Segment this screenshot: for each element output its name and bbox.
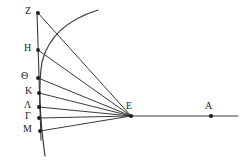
point-label-z: Z (25, 6, 31, 16)
point-label-a: A (205, 101, 212, 111)
point-marker-e (129, 114, 133, 118)
ray-h-to-e (38, 50, 131, 116)
point-label-mu: M (23, 124, 32, 134)
point-marker-z (36, 11, 40, 15)
point-marker-theta (36, 76, 40, 80)
geometry-canvas (0, 0, 244, 168)
point-label-lambda: Λ (24, 100, 31, 110)
point-label-e: E (126, 101, 132, 111)
point-marker-kappa (37, 91, 41, 95)
ray-lambda-to-e (39, 107, 131, 116)
ray-theta-to-e (38, 78, 131, 116)
point-marker-a (209, 114, 213, 118)
point-label-theta: Θ (21, 71, 28, 81)
point-label-gamma: Γ (25, 111, 31, 121)
ray-kappa-to-e (39, 93, 131, 116)
main-arc-curve (40, 10, 98, 156)
point-marker-gamma (37, 116, 41, 120)
point-marker-mu (38, 129, 42, 133)
point-marker-h (36, 48, 40, 52)
ray-mu-to-e (40, 116, 131, 131)
point-label-h: H (24, 43, 31, 53)
point-label-kappa: K (25, 86, 32, 96)
ray-gamma-to-e (39, 116, 131, 118)
ray-z-to-e (38, 13, 131, 116)
point-marker-lambda (37, 105, 41, 109)
geometry-figure: Z H Θ K Λ Γ M E A (0, 0, 244, 168)
